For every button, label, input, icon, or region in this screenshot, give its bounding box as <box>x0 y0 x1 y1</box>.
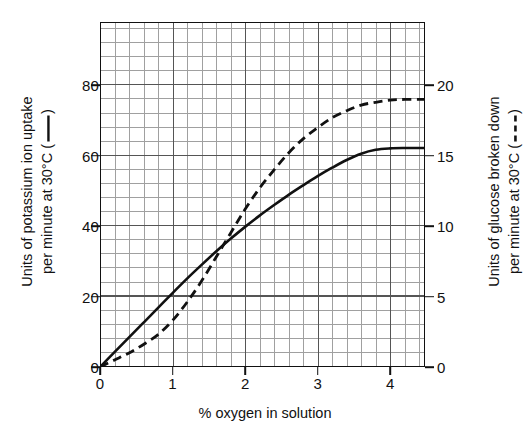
series-line-potassium <box>100 148 425 367</box>
x-axis-tick-label: 4 <box>386 375 394 392</box>
x-axis-tick-label: 2 <box>241 375 249 392</box>
dashed-line-key-icon <box>510 114 520 144</box>
y-axis-right-label-line2: per minute at 30°C () <box>505 77 525 307</box>
x-axis-tick-mark <box>172 367 174 375</box>
x-axis-tick-mark <box>389 367 391 375</box>
x-axis-tick-label: 0 <box>96 375 104 392</box>
x-axis-label: % oxygen in solution <box>0 405 530 421</box>
y-axis-left-label-line1: Units of potassium ion uptake <box>18 77 38 307</box>
chart-figure: 020406080 05101520 01234 Units of potass… <box>0 0 530 439</box>
y-axis-left-tick-label: 20 <box>82 288 99 305</box>
y-axis-right-tick-mark <box>425 155 434 157</box>
y-axis-right-tick-label: 0 <box>437 359 445 376</box>
y-axis-left-tick-label: 80 <box>82 77 99 94</box>
y-axis-right-tick-label: 10 <box>437 218 454 235</box>
y-axis-left-label: Units of potassium ion uptake per minute… <box>18 77 57 307</box>
x-axis-tick-label: 1 <box>168 375 176 392</box>
y-axis-right-tick-mark <box>425 296 434 298</box>
y-axis-right-label-line1: Units of glucose broken down <box>485 77 505 307</box>
y-axis-left-label-line2: per minute at 30°C () <box>38 77 58 307</box>
y-axis-right-tick-mark <box>425 85 434 87</box>
x-axis-tick-mark <box>99 367 101 375</box>
y-axis-right-label: Units of glucose broken down per minute … <box>485 77 524 307</box>
plot-area <box>100 22 425 367</box>
series-line-glucose <box>100 99 425 367</box>
y-axis-right-tick-mark <box>425 225 434 227</box>
y-axis-right-tick-label: 20 <box>437 77 454 94</box>
y-axis-right-tick-label: 15 <box>437 147 454 164</box>
y-axis-left-tick-label: 0 <box>90 359 99 376</box>
solid-line-key-icon <box>43 114 53 144</box>
x-axis-tick-mark <box>317 367 319 375</box>
x-axis-tick-label: 3 <box>313 375 321 392</box>
y-axis-right-tick-mark <box>425 366 434 368</box>
y-axis-right-tick-label: 5 <box>437 288 445 305</box>
series-lines <box>100 22 425 367</box>
x-axis-tick-mark <box>244 367 246 375</box>
y-axis-left-tick-label: 60 <box>82 147 99 164</box>
y-axis-left-tick-label: 40 <box>82 218 99 235</box>
